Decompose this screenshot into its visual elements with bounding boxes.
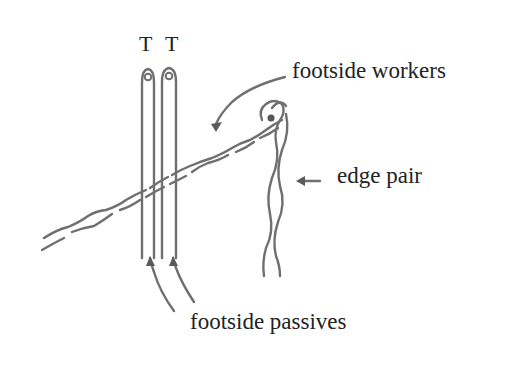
pin-icon — [268, 115, 275, 122]
pin-hole-left-icon — [145, 74, 152, 81]
pin-hole-right-icon — [166, 73, 173, 80]
edge-pair-thread — [261, 101, 288, 276]
arrow-footside-passives-right-icon — [169, 256, 194, 302]
passive-pair-right — [162, 68, 176, 258]
passive-pair-left — [142, 69, 154, 258]
arrow-edge-pair-icon — [296, 176, 320, 186]
